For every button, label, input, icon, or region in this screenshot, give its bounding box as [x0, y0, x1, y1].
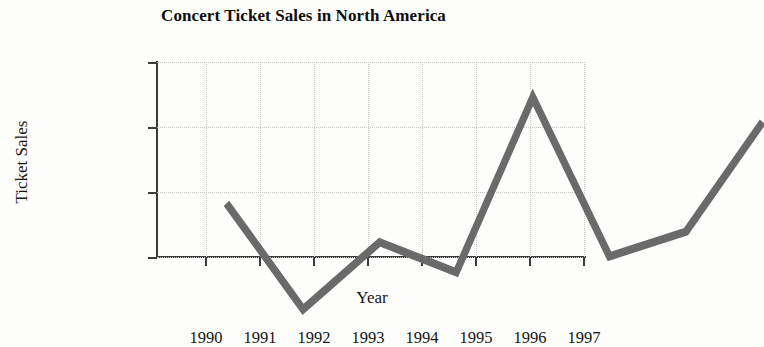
y-tick-1200 — [148, 127, 157, 129]
y-tick-600 — [148, 257, 157, 259]
y-axis-title: Ticket Sales — [12, 87, 32, 237]
y-tick-900 — [148, 192, 157, 194]
chart-title: Concert Ticket Sales in North America — [0, 6, 607, 26]
x-axis-title: Year — [157, 288, 587, 308]
ticket-sales-line — [226, 97, 762, 309]
plot-area: $1.5 billion 1.2 billion 900 million 600… — [157, 62, 585, 257]
y-tick-1500 — [148, 62, 157, 64]
